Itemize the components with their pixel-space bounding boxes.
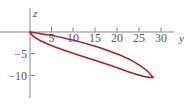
x-tick-20: 20 [111,31,123,45]
x-tick-30: 30 [155,31,167,45]
x-tick-25: 25 [133,31,145,45]
z-tick-minus10: −10 [8,69,27,83]
y-axis-label: y [178,32,184,44]
z-tick-minus5: −5 [14,47,27,61]
z-axis-label: z [32,7,38,19]
plot-area: 5 10 15 20 25 30 −5 −10 z y [0,0,191,104]
x-tick-15: 15 [89,31,101,45]
vertical-ticks [30,54,35,76]
x-tick-10: 10 [67,31,79,45]
chart: 5 10 15 20 25 30 −5 −10 z y [0,0,191,104]
x-tick-5: 5 [49,31,55,45]
